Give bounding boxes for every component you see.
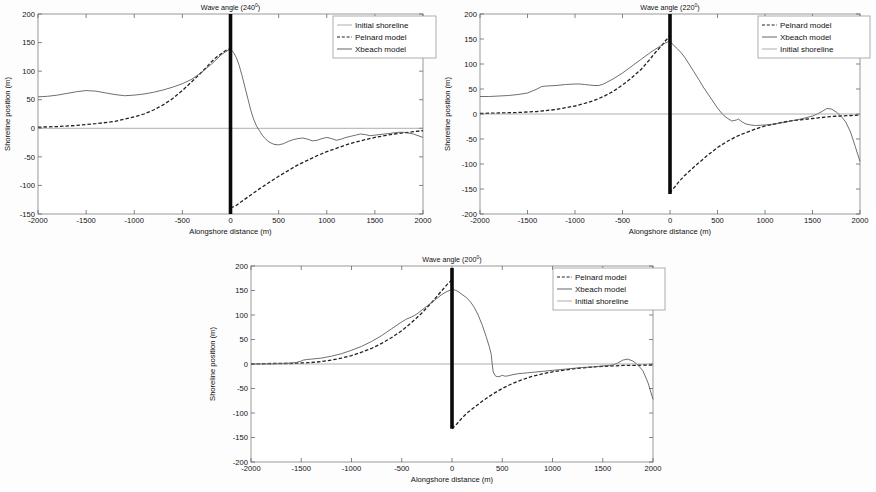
svg-text:0: 0 [31, 124, 35, 133]
svg-text:0: 0 [244, 360, 248, 369]
chart-title: Wave angle (2400) [201, 2, 260, 12]
svg-text:-500: -500 [175, 216, 190, 225]
groyne-structure [668, 14, 672, 194]
figure-container: -2000-1500-1000-5000500100015002000-150-… [0, 0, 876, 492]
chart-title: Wave angle (2200) [640, 2, 699, 12]
svg-text:1500: 1500 [594, 464, 611, 473]
legend: Pelnard modelXbeach modelInitial shoreli… [758, 16, 870, 58]
svg-text:2000: 2000 [852, 216, 869, 225]
svg-text:50: 50 [27, 95, 35, 104]
legend-label: Xbeach model [355, 45, 406, 54]
svg-text:50: 50 [240, 335, 248, 344]
svg-text:0: 0 [668, 216, 672, 225]
svg-text:-1000: -1000 [125, 216, 144, 225]
svg-text:-150: -150 [233, 433, 248, 442]
svg-text:-150: -150 [462, 185, 477, 194]
svg-text:-1500: -1500 [518, 216, 537, 225]
svg-text:-200: -200 [233, 458, 248, 467]
svg-text:1000: 1000 [318, 216, 335, 225]
chart-panel-wave-240: -2000-1500-1000-5000500100015002000-150-… [0, 0, 440, 246]
svg-text:150: 150 [235, 286, 248, 295]
svg-text:0: 0 [228, 216, 232, 225]
groyne-structure [450, 268, 454, 429]
chart-svg: -2000-1500-1000-5000500100015002000-200-… [440, 0, 876, 246]
legend-label: Initial shoreline [575, 297, 629, 306]
svg-text:100: 100 [464, 60, 477, 69]
chart-svg: -2000-1500-1000-5000500100015002000-150-… [0, 0, 440, 246]
svg-text:100: 100 [22, 67, 35, 76]
svg-text:-150: -150 [20, 210, 35, 219]
svg-text:200: 200 [464, 10, 477, 19]
svg-text:100: 100 [235, 311, 248, 320]
y-axis-label: Shoreline position (m) [3, 77, 12, 151]
legend-label: Xbeach model [780, 33, 831, 42]
svg-text:150: 150 [464, 35, 477, 44]
svg-text:50: 50 [469, 85, 477, 94]
svg-text:150: 150 [22, 38, 35, 47]
svg-text:500: 500 [711, 216, 724, 225]
svg-text:-50: -50 [466, 135, 477, 144]
chart-svg: -2000-1500-1000-5000500100015002000-200-… [205, 248, 671, 492]
svg-text:0: 0 [450, 464, 454, 473]
legend-label: Initial shoreline [355, 21, 409, 30]
svg-text:1000: 1000 [757, 216, 774, 225]
y-axis-label: Shoreline position (m) [208, 327, 217, 401]
x-axis-label: Alongshore distance (m) [189, 227, 272, 236]
svg-text:1500: 1500 [366, 216, 383, 225]
legend-label: Pelnard model [355, 33, 407, 42]
svg-text:500: 500 [496, 464, 509, 473]
svg-text:-1500: -1500 [76, 216, 95, 225]
legend: Initial shorelinePelnard modelXbeach mod… [333, 16, 436, 58]
svg-text:-100: -100 [20, 181, 35, 190]
chart-panel-wave-220: -2000-1500-1000-5000500100015002000-200-… [440, 0, 876, 246]
svg-text:-100: -100 [462, 160, 477, 169]
legend-label: Pelnard model [780, 21, 832, 30]
y-axis-label: Shoreline position (m) [443, 77, 452, 151]
chart-panel-wave-200: -2000-1500-1000-5000500100015002000-200-… [205, 248, 671, 492]
svg-text:1000: 1000 [544, 464, 561, 473]
svg-text:1500: 1500 [804, 216, 821, 225]
x-axis-label: Alongshore distance (m) [629, 227, 712, 236]
svg-text:200: 200 [22, 10, 35, 19]
svg-text:-1500: -1500 [292, 464, 311, 473]
legend-label: Initial shoreline [780, 45, 834, 54]
svg-text:2000: 2000 [415, 216, 432, 225]
svg-text:-500: -500 [394, 464, 409, 473]
groyne-structure [229, 14, 233, 214]
svg-text:-1000: -1000 [565, 216, 584, 225]
legend-label: Pelnard model [575, 273, 627, 282]
svg-text:200: 200 [235, 262, 248, 271]
x-axis-label: Alongshore distance (m) [411, 475, 494, 484]
svg-text:-1000: -1000 [342, 464, 361, 473]
svg-text:500: 500 [272, 216, 285, 225]
svg-text:-50: -50 [237, 384, 248, 393]
legend: Pelnard modelXbeach modelInitial shoreli… [553, 268, 665, 310]
svg-text:0: 0 [473, 110, 477, 119]
svg-text:-100: -100 [233, 409, 248, 418]
svg-text:2000: 2000 [645, 464, 662, 473]
legend-label: Xbeach model [575, 285, 626, 294]
svg-text:-50: -50 [24, 153, 35, 162]
chart-title: Wave angle (2000) [422, 254, 481, 264]
svg-text:-200: -200 [462, 210, 477, 219]
svg-text:-500: -500 [615, 216, 630, 225]
